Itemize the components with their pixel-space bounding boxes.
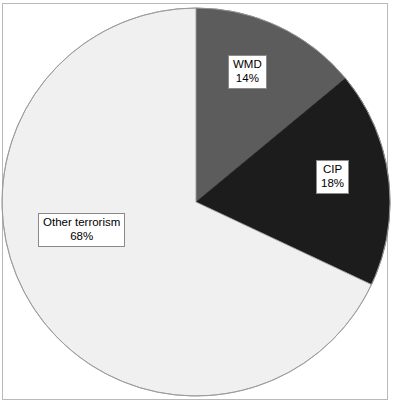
pie-label-other-terrorism: Other terrorism 68% [38,213,125,247]
pie-label-cip: CIP 18% [316,160,349,194]
pie-label-cip-name: CIP [321,163,344,177]
pie-label-cip-value: 18% [321,177,344,191]
pie-label-wmd-name: WMD [233,58,262,72]
pie-label-other-terrorism-name: Other terrorism [43,216,120,230]
pie-chart-canvas [0,0,393,406]
pie-chart-figure: WMD 14% CIP 18% Other terrorism 68% [0,0,393,406]
pie-label-wmd: WMD 14% [228,55,267,89]
pie-label-wmd-value: 14% [233,72,262,86]
pie-label-other-terrorism-value: 68% [43,230,120,244]
